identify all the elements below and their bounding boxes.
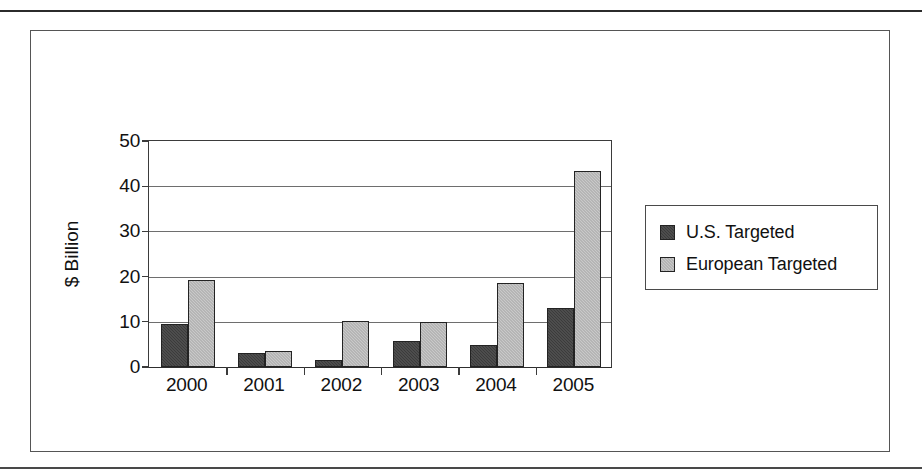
bar (238, 353, 265, 367)
y-axis-tick-label: 20 (119, 266, 140, 288)
gridline (149, 277, 611, 278)
gridline (149, 231, 611, 232)
bar (420, 322, 447, 367)
bar (161, 324, 188, 367)
y-axis-tick-label: 30 (119, 220, 140, 242)
y-axis-tick-label: 0 (130, 356, 140, 378)
bar-chart: $ Billion 01020304050 200020012002200320… (0, 0, 922, 475)
y-axis-tick-label: 40 (119, 175, 140, 197)
bar (393, 341, 420, 367)
legend-label-us-targeted: U.S. Targeted (686, 222, 794, 243)
legend-item-us-targeted: U.S. Targeted (660, 216, 877, 248)
x-axis-tick-label: 2002 (303, 374, 380, 396)
y-axis-tick (142, 140, 149, 141)
gridline (149, 322, 611, 323)
x-axis-tick-label: 2001 (225, 374, 302, 396)
plot-area: 01020304050 (148, 140, 612, 368)
x-axis-tick-label: 2004 (457, 374, 534, 396)
gridline (149, 186, 611, 187)
y-axis-tick (142, 276, 149, 277)
x-axis-tick-label: 2003 (380, 374, 457, 396)
bar (574, 171, 601, 367)
legend-item-european-targeted: European Targeted (660, 248, 877, 280)
bar (315, 360, 342, 367)
y-axis-tick (142, 186, 149, 187)
y-axis-tick (142, 366, 149, 367)
bar (188, 280, 215, 367)
bar (547, 308, 574, 367)
y-axis-tick (142, 321, 149, 322)
y-axis-tick-label: 50 (119, 130, 140, 152)
chart-legend: U.S. Targeted European Targeted (645, 205, 878, 290)
x-axis-tick-label: 2000 (148, 374, 225, 396)
bar (342, 321, 369, 368)
bar (497, 283, 524, 367)
legend-swatch-european-targeted (660, 257, 675, 272)
y-axis-tick (142, 231, 149, 232)
bar (470, 345, 497, 367)
y-axis-tick-label: 10 (119, 311, 140, 333)
legend-swatch-us-targeted (660, 225, 675, 240)
bar (265, 351, 292, 367)
legend-label-european-targeted: European Targeted (686, 254, 837, 275)
y-axis-title: $ Billion (61, 221, 83, 288)
x-axis-tick-label: 2005 (535, 374, 612, 396)
